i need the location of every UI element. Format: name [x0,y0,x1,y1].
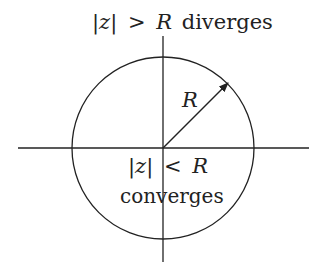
converges-label: converges [120,184,224,208]
inequality-label: |z| < R [128,154,208,179]
diagram-canvas: |z| > R diverges R |z| < R converges [0,0,325,278]
radius-of-convergence-diagram: |z| > R diverges R |z| < R converges [0,0,325,278]
radius-label: R [181,88,198,112]
diverges-label: |z| > R diverges [92,10,273,35]
